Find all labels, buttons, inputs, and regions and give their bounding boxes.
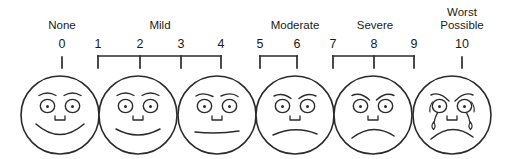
pupil [46,105,49,108]
face-none [21,76,99,154]
pupil [124,105,127,108]
face-very-severe [334,76,412,154]
face-group [0,0,507,159]
pupil [203,105,206,108]
face-worst [413,76,491,154]
pupil [384,105,387,108]
pupil [149,105,152,108]
pupil [438,105,441,108]
face-outline [21,76,99,154]
face-severe [256,76,334,154]
face-outline [334,76,412,154]
face-outline [99,76,177,154]
face-moderate [178,76,256,154]
pupil [71,105,74,108]
pain-faces-scale: NoneMildModerateSevereWorst Possible 012… [0,0,507,159]
pupil [281,105,284,108]
pupil [228,105,231,108]
face-outline [256,76,334,154]
pupil [463,105,466,108]
face-outline [178,76,256,154]
pupil [306,105,309,108]
pupil [359,105,362,108]
face-outline [413,76,491,154]
face-mild [99,76,177,154]
